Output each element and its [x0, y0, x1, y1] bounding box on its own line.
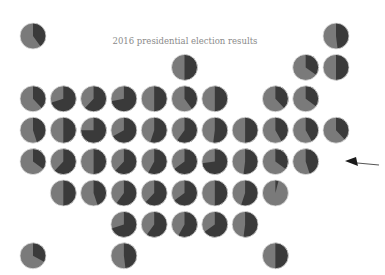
pie-tile	[81, 180, 107, 206]
pie-slice-dark	[154, 86, 167, 112]
pie-tile	[172, 54, 198, 80]
pie-tile	[323, 54, 349, 80]
pie-slice-dark	[63, 180, 76, 206]
pie-tile	[20, 149, 46, 175]
pie-tile	[232, 149, 258, 175]
pie-tile	[323, 23, 349, 49]
pie-tile	[50, 86, 76, 112]
pie-tile	[232, 117, 258, 143]
pie-tile	[20, 86, 46, 112]
pie-slice-dark	[124, 243, 137, 269]
pie-slice-dark	[243, 149, 258, 175]
pie-tile	[262, 180, 288, 206]
pie-tile	[50, 180, 76, 206]
pie-tile	[262, 149, 288, 175]
pie-tile	[50, 117, 76, 143]
pie-slice-dark	[275, 243, 288, 269]
pie-slice-dark	[243, 211, 258, 237]
pie-tile	[111, 243, 137, 269]
chart-title: 2016 presidential election results	[113, 36, 258, 46]
pie-tile	[293, 86, 319, 112]
arrow-annotation	[345, 157, 379, 166]
pie-tile	[141, 149, 167, 175]
pie-tile	[111, 211, 137, 237]
pie-tile	[202, 149, 228, 175]
pie-tile	[262, 243, 288, 269]
pie-tile	[323, 117, 349, 143]
pie-slice-dark	[336, 54, 349, 80]
pie-tile	[172, 86, 198, 112]
pie-tile	[172, 117, 198, 143]
pie-tile	[141, 211, 167, 237]
pie-slice-dark	[245, 117, 258, 143]
pie-tile	[202, 86, 228, 112]
pie-tile	[262, 86, 288, 112]
pie-tile	[172, 180, 198, 206]
pie-tile	[141, 86, 167, 112]
pie-tile	[20, 23, 46, 49]
pie-slice-dark	[215, 86, 228, 112]
pie-tile	[202, 211, 228, 237]
pie-tile	[111, 180, 137, 206]
pie-tile	[202, 117, 228, 143]
pie-tile	[81, 149, 107, 175]
pie-tile	[20, 243, 46, 269]
pie-tile	[262, 117, 288, 143]
pie-slice-dark	[63, 117, 76, 143]
pie-slice-dark	[215, 180, 228, 206]
pie-tile	[232, 211, 258, 237]
pie-tile	[111, 149, 137, 175]
pie-tile	[172, 211, 198, 237]
pie-tile	[141, 180, 167, 206]
arrow-head-icon	[345, 157, 358, 166]
pie-tile	[111, 86, 137, 112]
pie-slice-dark	[213, 117, 228, 143]
pie-slice-dark	[94, 149, 107, 175]
pie-tile	[232, 180, 258, 206]
pie-tile	[81, 117, 107, 143]
pie-tile	[293, 117, 319, 143]
election-pie-grid-chart: 2016 presidential election results	[0, 0, 385, 275]
pie-tile	[141, 117, 167, 143]
pie-tile	[172, 149, 198, 175]
pie-tile	[293, 54, 319, 80]
pie-tile	[81, 86, 107, 112]
pie-tile	[202, 180, 228, 206]
pie-slice-dark	[185, 54, 198, 80]
pie-slice-dark	[336, 23, 349, 49]
pie-tile	[293, 149, 319, 175]
pie-tile	[50, 149, 76, 175]
pie-tiles	[20, 23, 349, 269]
pie-tile	[20, 117, 46, 143]
pie-tile	[111, 117, 137, 143]
